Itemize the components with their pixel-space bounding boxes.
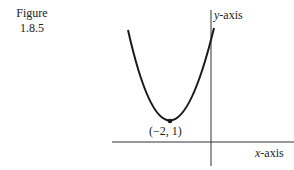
vertex-point: [168, 119, 173, 124]
y-axis-label: y-axis: [214, 8, 243, 23]
vertex-label: (−2, 1): [149, 124, 182, 139]
parabola-curve: [128, 28, 214, 121]
parabola-diagram: [0, 0, 294, 170]
x-axis-label-suffix: -axis: [260, 146, 283, 160]
x-axis-label: x-axis: [255, 146, 284, 161]
y-axis-label-suffix: -axis: [219, 8, 242, 22]
